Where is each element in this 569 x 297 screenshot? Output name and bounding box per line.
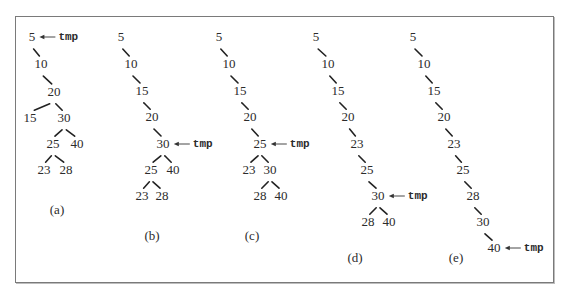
node-40: 40 bbox=[167, 162, 180, 177]
node-15: 15 bbox=[24, 110, 37, 125]
edge-n10-n15 bbox=[426, 76, 432, 83]
edge-n5-n10 bbox=[318, 49, 326, 56]
node-28: 28 bbox=[254, 188, 267, 203]
node-28: 28 bbox=[60, 162, 73, 177]
node-20: 20 bbox=[342, 109, 355, 124]
panel-a: 51020153025402328tmp(a) bbox=[24, 29, 84, 217]
panel-caption-e: (e) bbox=[449, 250, 463, 265]
edge-n10-n15 bbox=[330, 76, 336, 83]
panel-caption-b: (b) bbox=[144, 228, 159, 243]
edge-n10-n20 bbox=[43, 76, 51, 84]
node-5: 5 bbox=[118, 29, 125, 44]
panel-b: 51015203025402328tmp(b) bbox=[118, 29, 213, 243]
node-40: 40 bbox=[488, 240, 501, 255]
panel-d: 51015202325302840tmp(d) bbox=[313, 29, 428, 265]
node-23: 23 bbox=[38, 162, 51, 177]
figure-stage: 51020153025402328tmp(a)51015203025402328… bbox=[0, 0, 569, 297]
node-5: 5 bbox=[216, 29, 223, 44]
node-15: 15 bbox=[332, 83, 345, 98]
edge-n20-n25 bbox=[252, 129, 258, 136]
node-25: 25 bbox=[254, 136, 267, 151]
node-15: 15 bbox=[136, 83, 149, 98]
arrowhead-icon bbox=[174, 142, 179, 146]
node-30: 30 bbox=[58, 110, 71, 125]
node-28: 28 bbox=[467, 188, 480, 203]
tmp-pointer-label: tmp bbox=[193, 138, 213, 150]
node-10: 10 bbox=[418, 56, 431, 71]
node-10: 10 bbox=[125, 56, 138, 71]
node-10: 10 bbox=[35, 56, 48, 71]
node-5: 5 bbox=[410, 29, 417, 44]
node-28: 28 bbox=[156, 188, 169, 203]
node-15: 15 bbox=[234, 83, 247, 98]
edge-n5-n10 bbox=[415, 49, 422, 56]
node-30: 30 bbox=[157, 136, 170, 151]
node-40: 40 bbox=[71, 136, 84, 151]
tree-diagram: 51020153025402328tmp(a)51015203025402328… bbox=[0, 0, 569, 297]
node-23: 23 bbox=[351, 136, 364, 151]
edge-n20-n30 bbox=[154, 129, 161, 136]
node-10: 10 bbox=[223, 56, 236, 71]
node-40: 40 bbox=[275, 188, 288, 203]
node-20: 20 bbox=[438, 109, 451, 124]
node-25: 25 bbox=[457, 162, 470, 177]
edge-n5-n10 bbox=[123, 49, 129, 56]
panel-caption-d: (d) bbox=[347, 250, 362, 265]
node-25: 25 bbox=[145, 162, 158, 177]
node-10: 10 bbox=[322, 56, 335, 71]
tmp-pointer-label: tmp bbox=[58, 31, 78, 43]
arrowhead-icon bbox=[505, 246, 510, 250]
node-5: 5 bbox=[313, 29, 320, 44]
edge-n5-n10 bbox=[34, 49, 40, 56]
tmp-pointer-label: tmp bbox=[290, 138, 310, 150]
tmp-pointer-label: tmp bbox=[524, 242, 544, 254]
panel-caption-a: (a) bbox=[50, 202, 64, 217]
node-30: 30 bbox=[477, 214, 490, 229]
panel-c: 51015202523302840tmp(c) bbox=[216, 29, 310, 243]
node-40: 40 bbox=[383, 214, 396, 229]
node-23: 23 bbox=[448, 136, 461, 151]
edge-n5-n10 bbox=[221, 49, 227, 56]
edge-n20-n23 bbox=[350, 129, 356, 136]
node-20: 20 bbox=[146, 109, 159, 124]
node-23: 23 bbox=[243, 162, 256, 177]
node-20: 20 bbox=[48, 84, 61, 99]
edge-n20-n23 bbox=[446, 129, 452, 136]
node-30: 30 bbox=[372, 188, 385, 203]
tmp-pointer-label: tmp bbox=[408, 190, 428, 202]
node-23: 23 bbox=[136, 188, 149, 203]
node-28: 28 bbox=[362, 214, 375, 229]
node-5: 5 bbox=[29, 29, 36, 44]
arrowhead-icon bbox=[271, 142, 276, 146]
node-25: 25 bbox=[47, 136, 60, 151]
node-30: 30 bbox=[264, 162, 277, 177]
node-15: 15 bbox=[428, 83, 441, 98]
arrowhead-icon bbox=[389, 194, 394, 198]
node-25: 25 bbox=[361, 162, 374, 177]
edge-n10-n15 bbox=[231, 76, 238, 83]
edge-n20-n15 bbox=[34, 104, 49, 110]
panel-caption-c: (c) bbox=[245, 228, 259, 243]
node-20: 20 bbox=[244, 109, 257, 124]
edge-n10-n15 bbox=[133, 76, 140, 83]
arrowhead-icon bbox=[39, 35, 44, 39]
panel-e: 51015202325283040tmp(e) bbox=[410, 29, 544, 265]
